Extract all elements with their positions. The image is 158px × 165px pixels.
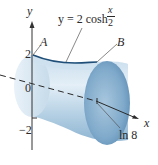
curve-equation-frac-den: 2 xyxy=(108,18,113,28)
y-tick-neg2: −2 xyxy=(19,124,32,136)
point-b-label: B xyxy=(117,36,124,48)
y-tick-0: 0 xyxy=(25,82,31,94)
point-a-label: A xyxy=(40,36,47,48)
curve-equation: y = 2 cosh xyxy=(58,13,108,25)
y-axis-label: y xyxy=(27,5,32,17)
x-tick-ln8: ln 8 xyxy=(119,129,137,141)
curve-leader xyxy=(66,28,82,62)
surface-of-revolution-diagram: y A B y = 2 cosh x 2 2 0 −2 x ln 8 xyxy=(0,0,158,165)
curve-equation-lhs: y = 2 cosh xyxy=(58,12,108,26)
y-tick-2: 2 xyxy=(25,48,31,60)
x-axis-arrow-icon xyxy=(132,115,139,119)
x-axis-label: x xyxy=(144,117,149,129)
y-axis-arrow-icon xyxy=(30,21,35,28)
curve-equation-frac-num: x xyxy=(108,5,112,15)
